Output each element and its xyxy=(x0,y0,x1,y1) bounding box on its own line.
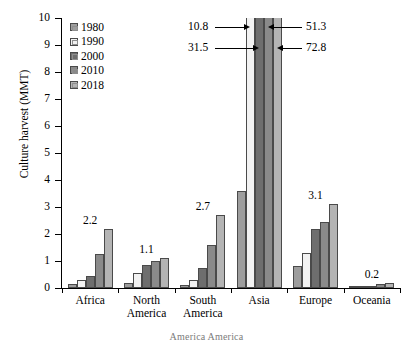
legend-item: 2000 xyxy=(70,49,104,63)
legend-label: 2018 xyxy=(81,78,104,92)
bar xyxy=(376,284,385,288)
bar-value-label: 3.1 xyxy=(287,189,343,201)
bar xyxy=(151,261,160,288)
figure-caption: America America xyxy=(0,331,413,340)
bar-group xyxy=(344,18,400,288)
bar xyxy=(160,258,169,288)
legend-swatch-icon xyxy=(70,81,78,89)
legend-label: 2010 xyxy=(81,63,104,77)
annotation-arrowhead-icon xyxy=(277,45,283,51)
bar xyxy=(207,245,216,288)
overflow-annotation-label: 51.3 xyxy=(306,20,326,32)
bar xyxy=(237,191,246,288)
bar-value-label: 2.2 xyxy=(62,214,118,226)
bar-group-bars xyxy=(231,18,287,288)
legend-item: 1980 xyxy=(70,20,104,34)
legend-label: 1980 xyxy=(81,20,104,34)
overflow-annotation-label: 10.8 xyxy=(188,20,208,32)
annotation-leader-line xyxy=(215,27,244,28)
bar xyxy=(311,229,320,288)
y-axis-tick xyxy=(55,99,61,100)
bar xyxy=(189,280,198,288)
y-axis-tick-label: 10 xyxy=(0,12,50,24)
legend-item: 1990 xyxy=(70,34,104,48)
legend: 19801990200020102018 xyxy=(70,20,104,92)
x-axis-tick xyxy=(287,288,288,293)
y-axis-tick-label: 2 xyxy=(0,228,50,240)
bar xyxy=(367,286,376,288)
legend-item: 2018 xyxy=(70,78,104,92)
x-axis-category-label: Europe xyxy=(287,294,343,307)
bar xyxy=(124,283,133,288)
x-axis-category-label: Africa xyxy=(62,294,118,307)
bar xyxy=(385,283,394,288)
y-axis-tick xyxy=(55,153,61,154)
bar-group xyxy=(287,18,343,288)
bar xyxy=(142,265,151,288)
bar-value-label: 1.1 xyxy=(118,243,174,255)
y-axis-tick xyxy=(55,207,61,208)
bar-value-label: 0.2 xyxy=(344,268,400,280)
chart-figure: Culture harvest (MMT) 012345678910 Afric… xyxy=(0,0,413,340)
legend-swatch-icon xyxy=(70,23,78,31)
bar xyxy=(264,18,273,288)
y-axis-tick-label: 7 xyxy=(0,93,50,105)
y-axis-tick-label: 8 xyxy=(0,66,50,78)
bar xyxy=(86,276,95,288)
x-axis-tick xyxy=(344,288,345,293)
y-axis-tick-label: 0 xyxy=(0,282,50,294)
y-axis-tick xyxy=(55,45,61,46)
x-axis-category-label: Asia xyxy=(231,294,287,307)
x-axis-tick xyxy=(231,288,232,293)
bar-group-bars xyxy=(175,18,231,288)
bar xyxy=(104,229,113,288)
y-axis-tick xyxy=(55,18,61,19)
annotation-arrowhead-icon xyxy=(244,24,250,30)
annotation-arrowhead-icon xyxy=(268,24,274,30)
y-axis-tick-label: 9 xyxy=(0,39,50,51)
annotation-leader-line xyxy=(215,48,253,49)
legend-swatch-icon xyxy=(70,66,78,74)
legend-label: 2000 xyxy=(81,49,104,63)
bar xyxy=(302,253,311,288)
y-axis-tick-label: 5 xyxy=(0,147,50,159)
bar xyxy=(320,222,329,288)
bar xyxy=(293,266,302,288)
bar-group-bars xyxy=(344,18,400,288)
bar xyxy=(329,204,338,288)
bar xyxy=(95,254,104,288)
x-axis-tick xyxy=(118,288,119,293)
y-axis-tick xyxy=(55,180,61,181)
x-axis-category-label: Oceania xyxy=(344,294,400,307)
bar xyxy=(273,18,282,288)
bar xyxy=(77,280,86,288)
legend-item: 2010 xyxy=(70,63,104,77)
y-axis-tick xyxy=(55,261,61,262)
bar-value-label: 2.7 xyxy=(175,200,231,212)
bar xyxy=(198,268,207,288)
y-axis-tick-label: 3 xyxy=(0,201,50,213)
plot-area xyxy=(62,18,400,288)
annotation-leader-line xyxy=(274,27,302,28)
legend-swatch-icon xyxy=(70,52,78,60)
x-axis-category-label: South America xyxy=(175,294,231,319)
bar xyxy=(255,18,264,288)
annotation-leader-line xyxy=(283,48,302,49)
annotation-arrowhead-icon xyxy=(253,45,259,51)
bar xyxy=(216,215,225,288)
overflow-annotation-label: 72.8 xyxy=(306,41,326,53)
y-axis-tick-label: 6 xyxy=(0,120,50,132)
bar xyxy=(349,286,358,288)
y-axis-tick-label: 1 xyxy=(0,255,50,267)
y-axis-tick-label: 4 xyxy=(0,174,50,186)
x-axis-tick xyxy=(400,288,401,293)
x-axis-category-label: North America xyxy=(118,294,174,319)
bar xyxy=(246,18,255,288)
x-axis-tick xyxy=(62,288,63,293)
bar xyxy=(180,285,189,288)
y-axis-tick xyxy=(55,72,61,73)
y-axis-tick xyxy=(55,234,61,235)
bar xyxy=(68,284,77,288)
bar-group xyxy=(175,18,231,288)
overflow-annotation-label: 31.5 xyxy=(188,41,208,53)
